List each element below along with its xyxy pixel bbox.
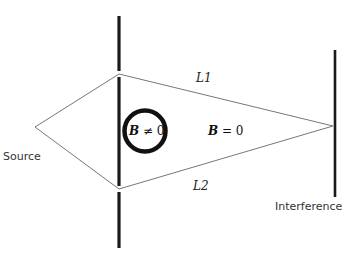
path-source-to-top-slit: [35, 74, 119, 127]
field-inside-symbol: B: [128, 124, 139, 138]
field-inside-label: B ≠ 0: [128, 124, 165, 138]
double-slit-diagram: Source Interference L1 L2 B ≠ 0 B = 0: [0, 0, 354, 262]
source-label: Source: [3, 150, 41, 163]
field-outside-relation: = 0: [222, 124, 244, 138]
interference-label: Interference: [275, 200, 343, 213]
field-outside-symbol: B: [207, 124, 218, 138]
path-l1-label: L1: [195, 71, 212, 85]
field-outside-label: B = 0: [207, 124, 244, 138]
path-source-to-bottom-slit: [35, 127, 119, 189]
field-inside-relation: ≠ 0: [143, 124, 165, 138]
path-l2-label: L2: [192, 179, 209, 193]
electron-paths: [35, 74, 333, 189]
